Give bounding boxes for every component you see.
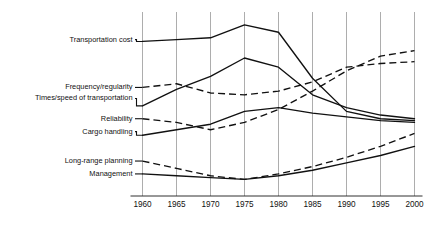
series-label-3: Reliability [101,114,133,123]
x-tick-1970: 1970 [201,200,220,209]
leader-line-2 [135,98,143,105]
label-leader-lines [135,40,143,174]
x-tick-2000: 2000 [405,200,424,209]
x-tick-1990: 1990 [337,200,356,209]
series-label-5: Long-range planning [65,156,133,165]
series-label-1: Frequency/regularity [65,82,133,91]
series-label-0: Transportation cost [70,35,133,44]
line-chart: Transportation costFrequency/regularityT… [0,0,426,229]
chart-container: Transportation costFrequency/regularityT… [0,0,426,229]
x-tick-1975: 1975 [235,200,254,209]
x-tick-1985: 1985 [303,200,322,209]
leader-line-0 [135,40,143,42]
x-tick-1980: 1980 [269,200,288,209]
series-label-4: Cargo handling [82,127,132,136]
series-label-6: Management [89,169,132,178]
x-tick-1965: 1965 [167,200,186,209]
x-tick-1960: 1960 [133,200,152,209]
leader-line-4 [135,132,143,136]
x-tick-1995: 1995 [371,200,390,209]
series-label-2: Times/speed of transportation [35,93,133,102]
x-axis-tick-labels: 196019651970197519801985199019952000 [133,200,424,209]
series-labels: Transportation costFrequency/regularityT… [35,35,133,178]
